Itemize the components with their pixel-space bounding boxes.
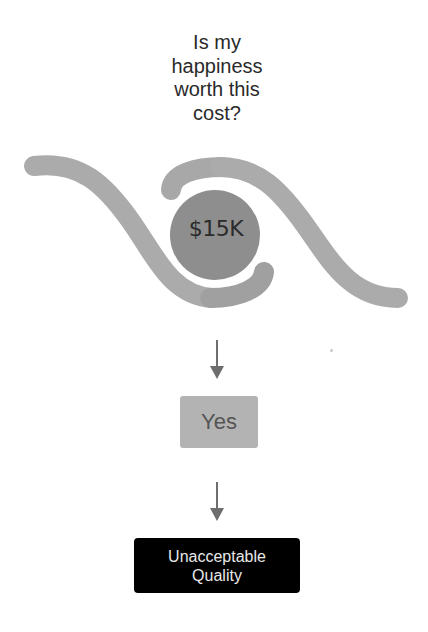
result-box: Unacceptable Quality (134, 538, 300, 593)
down-arrow-icon (210, 340, 224, 380)
cost-label: $15K (170, 216, 262, 241)
result-line-1: Unacceptable (168, 547, 266, 566)
arrow-head (210, 366, 224, 379)
result-line-2: Quality (192, 566, 242, 585)
arrow-shaft (216, 340, 218, 368)
down-arrow-icon (210, 482, 224, 522)
answer-box: Yes (180, 396, 258, 448)
answer-label: Yes (201, 409, 237, 435)
scan-speck (330, 349, 333, 352)
arrow-head (210, 508, 224, 521)
arrow-shaft (216, 482, 218, 510)
